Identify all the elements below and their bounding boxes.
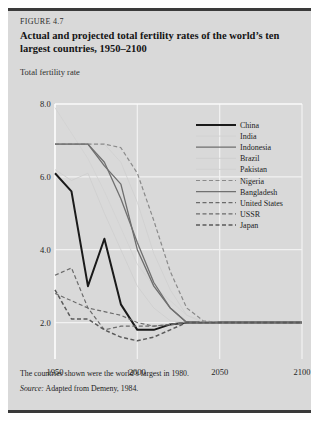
figure-source: Source: Adapted from Demeny, 1984.	[20, 383, 298, 394]
source-label: Source:	[20, 384, 44, 393]
legend-label-united-states: United States	[240, 199, 283, 208]
series-line-china	[55, 173, 302, 330]
chart-area: 2.04.06.08.0 1950200020502100 ChinaIndia…	[8, 11, 311, 416]
legend: ChinaIndiaIndonesiaBrazilPakistanNigeria…	[196, 121, 283, 230]
legend-label-india: India	[240, 132, 257, 141]
legend-label-pakistan: Pakistan	[240, 165, 267, 174]
legend-label-china: China	[240, 121, 260, 130]
legend-label-indonesia: Indonesia	[240, 143, 272, 152]
figure-footnote: The countries shown were the world’s lar…	[20, 368, 298, 379]
legend-label-brazil: Brazil	[240, 154, 260, 163]
y-tick-label: 6.0	[40, 172, 51, 182]
series-line-india	[55, 108, 302, 323]
legend-label-bangladesh: Bangladesh	[240, 188, 277, 197]
y-tick-label: 2.0	[40, 318, 51, 328]
legend-label-ussr: USSR	[240, 210, 261, 219]
figure-panel: FIGURE 4.7 Actual and projected total fe…	[8, 8, 311, 413]
source-text: Adapted from Demeny, 1984.	[46, 384, 139, 393]
legend-label-nigeria: Nigeria	[240, 177, 264, 186]
y-axis-ticks: 2.04.06.08.0	[40, 99, 51, 328]
fertility-rate-line-chart: 2.04.06.08.0 1950200020502100 ChinaIndia…	[8, 11, 311, 416]
legend-label-japan: Japan	[240, 221, 258, 230]
y-tick-label: 4.0	[40, 245, 51, 255]
y-tick-label: 8.0	[40, 99, 51, 109]
